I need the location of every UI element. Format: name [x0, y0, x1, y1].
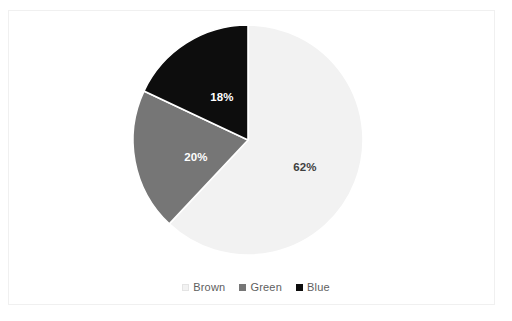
- pie-label-brown: 62%: [293, 161, 316, 173]
- chart-legend: Brown Green Blue: [0, 281, 512, 293]
- pie-svg: [125, 17, 371, 263]
- legend-item-blue[interactable]: Blue: [296, 281, 330, 293]
- legend-label-green: Green: [250, 281, 282, 293]
- pie-chart: 62% 20% 18% Brown Green Blue: [0, 0, 512, 321]
- legend-item-brown[interactable]: Brown: [182, 281, 225, 293]
- legend-swatch-brown-icon: [182, 284, 189, 291]
- legend-swatch-blue-icon: [296, 284, 303, 291]
- legend-label-brown: Brown: [193, 281, 225, 293]
- legend-swatch-green-icon: [239, 284, 246, 291]
- legend-item-green[interactable]: Green: [239, 281, 282, 293]
- pie-label-green: 20%: [184, 151, 207, 163]
- pie-label-blue: 18%: [210, 91, 233, 103]
- legend-label-blue: Blue: [307, 281, 330, 293]
